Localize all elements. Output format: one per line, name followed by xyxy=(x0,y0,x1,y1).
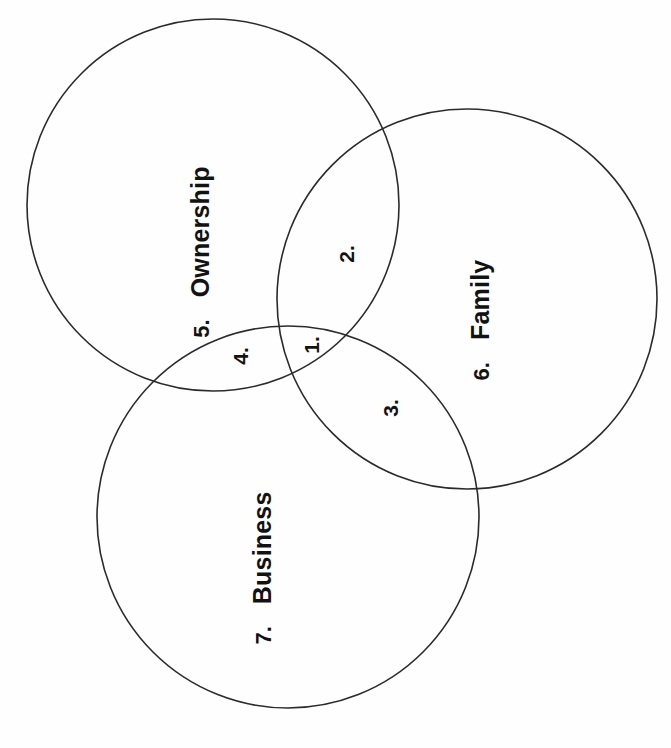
label-family-number: 6. xyxy=(471,362,493,380)
label-family-name: Family xyxy=(468,260,493,340)
label-ownership-name: Ownership xyxy=(188,166,213,297)
venn-diagram: 5. Ownership 6. Family 7. Business 1. 2.… xyxy=(0,0,671,748)
label-ownership: 5. Ownership xyxy=(188,166,213,337)
label-intersection-ownership-business: 4. xyxy=(230,347,251,365)
label-family: 6. Family xyxy=(468,260,493,381)
label-ownership-number: 5. xyxy=(191,319,213,337)
circle-business[interactable] xyxy=(97,326,479,708)
label-intersection-ownership-family: 2. xyxy=(336,245,357,263)
label-business: 7. Business xyxy=(250,491,275,644)
label-intersection-family-business: 3. xyxy=(380,399,401,417)
label-intersection-all-three: 1. xyxy=(301,336,322,354)
label-business-number: 7. xyxy=(253,626,275,644)
venn-circles-canvas xyxy=(0,0,671,748)
label-business-name: Business xyxy=(250,491,275,604)
